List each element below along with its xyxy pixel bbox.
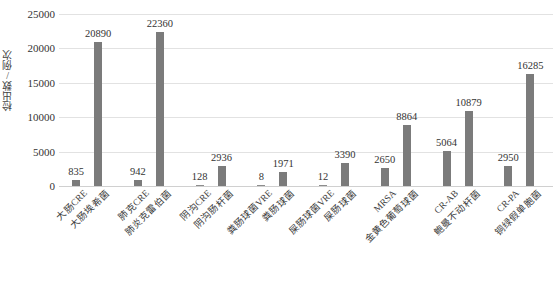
y-axis-tick-label: 20000 [7,43,55,54]
bar[interactable] [257,185,265,187]
gridline [59,186,553,187]
bar-value-label: 16285 [507,60,553,71]
bar[interactable] [196,185,204,187]
bar-value-label: 128 [177,171,223,182]
bar[interactable] [319,185,327,187]
bar-value-label: 942 [115,166,161,177]
bar[interactable] [72,180,80,186]
plot-area: 0500010000150002000025000835208909422236… [59,14,553,186]
bar[interactable] [526,74,534,186]
bar-value-label: 1971 [260,158,306,169]
bar-value-label: 2950 [485,152,531,163]
gridline [59,83,553,84]
y-axis-tick-label: 10000 [7,112,55,123]
y-axis-tick-label: 25000 [7,9,55,20]
bar-value-label: 2936 [199,152,245,163]
bar-value-label: 22360 [137,18,183,29]
gridline [59,117,553,118]
bar-value-label: 12 [300,171,346,182]
y-axis-tick-label: 15000 [7,78,55,89]
bar[interactable] [156,32,164,186]
y-axis-tick-label: 5000 [7,147,55,158]
bar[interactable] [279,172,287,186]
bar[interactable] [443,151,451,186]
bar[interactable] [465,111,473,186]
bar-value-label: 8 [238,171,284,182]
gridline [59,14,553,15]
bar[interactable] [134,180,142,186]
bar-value-label: 5064 [424,137,470,148]
bar-value-label: 835 [53,166,99,177]
y-axis-tick-label: 0 [7,181,55,192]
bar[interactable] [504,166,512,186]
bar-chart: 检出数/例次 050001000015000200002500083520890… [0,0,559,285]
gridline [59,48,553,49]
bar-value-label: 20890 [75,28,121,39]
bar[interactable] [341,163,349,186]
bar-value-label: 10879 [446,97,492,108]
gridline [59,152,553,153]
bar[interactable] [94,42,102,186]
bar[interactable] [218,166,226,186]
bar-value-label: 8864 [384,111,430,122]
bar[interactable] [403,125,411,186]
bar[interactable] [381,168,389,186]
bar-value-label: 2650 [362,154,408,165]
x-axis-labels: 大肠CRE大肠埃希菌肺克CRE肺炎克雷伯菌阴沟CRE阴沟肠杆菌粪肠球菌VRE粪肠… [59,188,553,283]
